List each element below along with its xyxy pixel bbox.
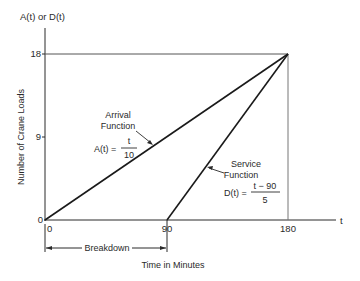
chart: A(t) or D(t) 18 9 0 Number of Crane Load… bbox=[0, 0, 360, 281]
x-axis-label: Time in Minutes bbox=[141, 260, 205, 270]
service-formula-numerator: t − 90 bbox=[254, 181, 277, 191]
y-tick-label-18: 18 bbox=[30, 48, 41, 59]
arrival-function-line bbox=[45, 54, 288, 220]
breakdown-label: Breakdown bbox=[84, 243, 129, 253]
x-tick-label-0: 0 bbox=[47, 223, 52, 234]
arrival-label-line1: Arrival bbox=[105, 110, 131, 120]
y-axis-label: Number of Crane Loads bbox=[16, 88, 26, 185]
y-tick-label-0: 0 bbox=[38, 214, 43, 225]
y-axis-title: A(t) or D(t) bbox=[20, 11, 65, 22]
arrival-formula-denominator: 10 bbox=[124, 150, 134, 160]
arrival-pointer bbox=[136, 131, 151, 143]
x-axis-symbol: t bbox=[340, 215, 343, 226]
arrival-label-line2: Function bbox=[101, 121, 136, 131]
arrowhead-left-icon bbox=[46, 246, 52, 250]
service-formula-lhs: D(t) = bbox=[224, 188, 247, 198]
service-label-line1: Service bbox=[231, 159, 261, 169]
arrowhead-right-icon bbox=[160, 246, 166, 250]
arrival-formula-lhs: A(t) = bbox=[94, 144, 116, 154]
service-formula-denominator: 5 bbox=[262, 195, 267, 205]
x-tick-label-180: 180 bbox=[280, 223, 296, 234]
arrival-formula-numerator: t bbox=[128, 136, 131, 146]
service-label-line2: Function bbox=[224, 170, 259, 180]
y-tick-label-9: 9 bbox=[36, 131, 41, 142]
service-pointer-arrowhead-icon bbox=[207, 166, 213, 170]
